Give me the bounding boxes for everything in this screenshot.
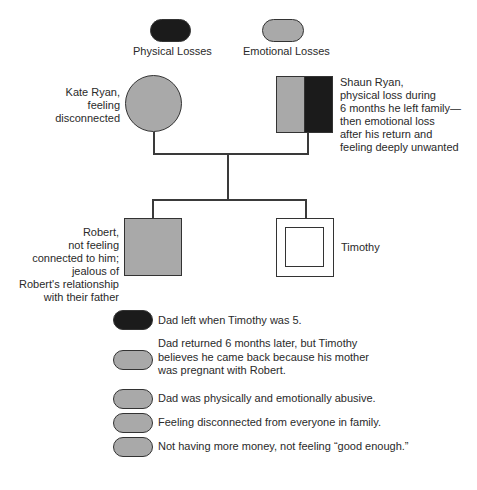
father-emotional-half (277, 77, 305, 132)
loss-item-line: Dad returned 6 months later, but Timothy (158, 337, 458, 351)
loss-item-line: was pregnant with Robert. (158, 364, 458, 378)
loss-item-text: Not having more money, not feeling “good… (158, 440, 458, 454)
robert-drop-line (152, 199, 154, 218)
emotional-loss-legend-label: Emotional Losses (243, 45, 330, 57)
robert-note-line: with their father (2, 291, 119, 304)
mother-symbol-circle (125, 75, 182, 132)
father-note-line: feeling deeply unwanted (340, 141, 475, 154)
descent-line (227, 153, 229, 200)
loss-item-emotional-swatch (113, 389, 153, 409)
loss-item-text: Feeling disconnected from everyone in fa… (158, 416, 458, 430)
physical-loss-legend-label: Physical Losses (133, 45, 212, 57)
robert-note-line: Robert, (2, 226, 119, 239)
robert-note: Robert, not feeling connected to him; je… (2, 226, 119, 304)
father-physical-half (305, 77, 332, 132)
mother-drop-line (153, 132, 155, 154)
loss-item-emotional-swatch (113, 350, 153, 370)
loss-item-emotional-swatch (113, 437, 153, 457)
robert-note-line: connected to him; (2, 252, 119, 265)
mother-note-line: Kate Ryan, (40, 86, 120, 99)
robert-note-line: jealous of (2, 265, 119, 278)
father-note-line: after his return and (340, 128, 475, 141)
emotional-loss-legend-swatch (262, 19, 304, 42)
mother-note: Kate Ryan, feeling disconnected (40, 86, 120, 125)
loss-item-text: Dad returned 6 months later, but Timothy… (158, 337, 458, 378)
father-symbol-square (276, 76, 333, 133)
marriage-line (153, 153, 309, 155)
loss-item-physical-swatch (113, 310, 153, 330)
loss-item-text: Dad left when Timothy was 5. (158, 314, 458, 328)
mother-note-line: disconnected (40, 112, 120, 125)
father-note-line: then emotional loss (340, 115, 475, 128)
mother-note-line: feeling (40, 99, 120, 112)
robert-note-line: Robert's relationship (2, 278, 119, 291)
father-note: Shaun Ryan, physical loss during 6 month… (340, 76, 475, 154)
sibship-line (152, 199, 307, 201)
timothy-inner-square (285, 227, 324, 267)
timothy-label: Timothy (341, 241, 380, 254)
physical-loss-legend-swatch (150, 19, 191, 42)
loss-item-text: Dad was physically and emotionally abusi… (158, 392, 458, 406)
father-note-line: Shaun Ryan, (340, 76, 475, 89)
timothy-drop-line (305, 199, 307, 218)
father-note-line: 6 months he left family— (340, 102, 475, 115)
loss-item-emotional-swatch (113, 413, 153, 433)
robert-note-line: not feeling (2, 239, 119, 252)
loss-item-line: believes he came back because his mother (158, 351, 458, 365)
father-drop-line (307, 133, 309, 154)
timothy-symbol-double-square (276, 218, 334, 277)
father-note-line: physical loss during (340, 89, 475, 102)
robert-symbol-square (124, 218, 182, 276)
